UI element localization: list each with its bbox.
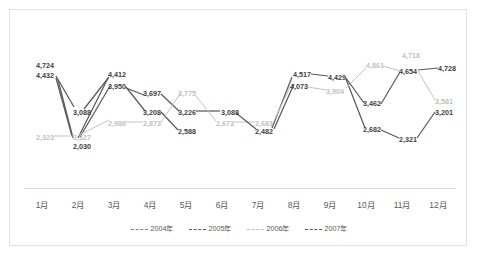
series-line-segment xyxy=(381,72,400,104)
data-point-label: 4,429 xyxy=(328,74,346,82)
chart-legend: 2004年2005年2006年2007年 xyxy=(10,221,468,237)
legend-item-2007年[interactable]: 2007年 xyxy=(305,224,348,234)
data-point-label: 2,986 xyxy=(108,120,126,128)
data-point-label: 2,873 xyxy=(143,120,161,128)
legend-line-swatch xyxy=(131,229,148,230)
x-axis-tick-9: 9月 xyxy=(312,196,348,214)
x-axis-tick-11: 11月 xyxy=(384,196,420,214)
data-point-label: 4,412 xyxy=(108,71,126,79)
x-axis-tick-7: 7月 xyxy=(240,196,276,214)
x-axis-tick-1: 1月 xyxy=(24,196,60,214)
x-axis-tick-5: 5月 xyxy=(168,196,204,214)
data-point-label: 4,724 xyxy=(36,62,54,70)
data-point-label: 4,073 xyxy=(290,83,308,91)
data-point-label: 2,327 xyxy=(73,134,91,142)
series-line-segment xyxy=(418,68,438,70)
x-axis-tick-2: 2月 xyxy=(60,196,96,214)
x-axis-labels: 1月2月3月4月5月6月7月8月9月10月11月12月 xyxy=(24,196,456,214)
series-line-segment xyxy=(58,80,73,138)
series-line-segment xyxy=(161,112,178,130)
legend-label: 2004年 xyxy=(151,224,174,234)
data-point-label: 3,950 xyxy=(108,83,126,91)
series-line-segment xyxy=(308,87,326,90)
series-line-segment xyxy=(417,112,435,138)
data-point-label: 2,482 xyxy=(255,128,273,136)
legend-label: 2007年 xyxy=(325,224,348,234)
x-axis-tick-6: 6月 xyxy=(204,196,240,214)
series-line-segment xyxy=(196,96,216,121)
chart-frame: 4,7244,4322,3233,0882,3272,0304,4123,950… xyxy=(9,9,467,246)
data-point-label: 3,226 xyxy=(178,109,196,117)
legend-line-swatch xyxy=(189,229,206,230)
series-line-segment xyxy=(346,78,364,103)
legend-item-2004年[interactable]: 2004年 xyxy=(131,224,174,234)
data-point-label: 4,728 xyxy=(438,65,456,73)
data-point-label: 3,208 xyxy=(143,109,161,117)
data-point-label: 4,432 xyxy=(36,72,54,80)
x-axis-tick-10: 10月 xyxy=(348,196,384,214)
legend-line-swatch xyxy=(247,229,264,230)
data-point-label: 2,030 xyxy=(73,143,91,151)
data-point-label: 4,718 xyxy=(402,52,420,60)
series-line-segment xyxy=(383,66,400,71)
data-point-label: 3,201 xyxy=(435,109,453,117)
data-point-label: 2,321 xyxy=(399,136,417,144)
series-line-segment xyxy=(272,77,292,128)
series-line-segment xyxy=(418,71,435,100)
series-line-segment xyxy=(236,113,256,129)
series-line-segment xyxy=(381,130,399,138)
data-point-label: 2,323 xyxy=(36,134,54,142)
data-point-label: 4,654 xyxy=(399,68,417,76)
data-point-label: 4,861 xyxy=(366,62,384,70)
x-axis-tick-12: 12月 xyxy=(420,196,456,214)
x-axis-line xyxy=(24,188,456,189)
legend-line-swatch xyxy=(305,229,322,230)
x-axis-tick-4: 4月 xyxy=(132,196,168,214)
series-line-segment xyxy=(272,87,290,125)
data-point-label: 3,088 xyxy=(73,109,91,117)
data-point-label: 3,581 xyxy=(435,98,453,106)
legend-label: 2005年 xyxy=(209,224,232,234)
series-line-segment xyxy=(346,68,366,88)
data-point-label: 3,088 xyxy=(221,109,239,117)
data-point-label: 3,904 xyxy=(326,88,344,96)
data-point-label: 3,462 xyxy=(363,100,381,108)
data-point-label: 4,517 xyxy=(293,71,311,79)
series-line-segment xyxy=(311,74,328,76)
x-axis-tick-8: 8月 xyxy=(276,196,312,214)
series-line-segment xyxy=(126,88,144,95)
legend-label: 2006年 xyxy=(267,224,290,234)
data-point-label: 3,697 xyxy=(143,90,161,98)
data-point-label: 3,775 xyxy=(178,90,196,98)
legend-item-2005年[interactable]: 2005年 xyxy=(189,224,232,234)
data-point-label: 2,588 xyxy=(178,128,196,136)
data-point-label: 2,682 xyxy=(363,126,381,134)
x-axis-tick-3: 3月 xyxy=(96,196,132,214)
data-point-label: 2,673 xyxy=(216,120,234,128)
legend-item-2006年[interactable]: 2006年 xyxy=(247,224,290,234)
